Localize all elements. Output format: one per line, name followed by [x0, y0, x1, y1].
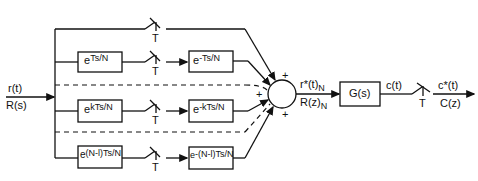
- switch-period-label-1: T: [152, 66, 159, 77]
- switch-period-label-k: T: [152, 115, 159, 126]
- output-time-label: c*(t): [438, 80, 458, 91]
- sum-sign-top: +: [282, 70, 288, 81]
- sum-output-time-label: r*(t)N: [300, 79, 325, 93]
- plant-block-label: G(s): [349, 88, 370, 99]
- delay-block-k: e-kTs/N: [193, 104, 225, 115]
- block-diagram: r(t) R(s) eTs/N ekTs/N e(N-l)Ts/N e-Ts/N…: [0, 0, 478, 181]
- advance-block-n-1: e(N-l)Ts/N: [80, 150, 121, 160]
- delay-block-n-1: e-(N-l)Ts/N: [190, 151, 234, 160]
- switch-period-label-0: T: [152, 33, 159, 44]
- switch-period-label-n-1: T: [152, 162, 159, 173]
- sum-sign-bottom: +: [282, 109, 288, 120]
- sum-output-z-label: R(z)N: [300, 97, 327, 111]
- delay-block-1: e-Ts/N: [193, 55, 220, 66]
- plant-output-label: c(t): [386, 80, 402, 91]
- advance-block-k: ekTs/N: [84, 104, 113, 115]
- diagram-wiring: [0, 0, 478, 181]
- advance-block-1: eTs/N: [84, 55, 108, 66]
- sum-sign-left: +: [256, 89, 262, 100]
- output-z-label: C(z): [440, 98, 461, 109]
- output-switch-period-label: T: [419, 98, 426, 109]
- input-laplace-label: R(s): [6, 100, 27, 111]
- input-time-label: r(t): [8, 83, 22, 94]
